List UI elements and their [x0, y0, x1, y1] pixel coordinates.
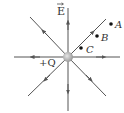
field-line-up-left: [30, 17, 68, 57]
point-b: B: [95, 32, 108, 43]
point-c: C: [79, 44, 94, 55]
point-c-label: C: [86, 44, 94, 55]
point-b-label: B: [100, 32, 108, 43]
field-diagram: E +Q A B C: [0, 0, 124, 113]
field-line-down-right: [68, 57, 106, 96]
positive-charge: [63, 52, 73, 62]
point-a: A: [109, 19, 122, 30]
field-vector-label: E: [57, 3, 65, 18]
charge-label: +Q: [39, 57, 56, 68]
point-a-label: A: [114, 19, 122, 30]
field-label: E: [57, 5, 65, 18]
